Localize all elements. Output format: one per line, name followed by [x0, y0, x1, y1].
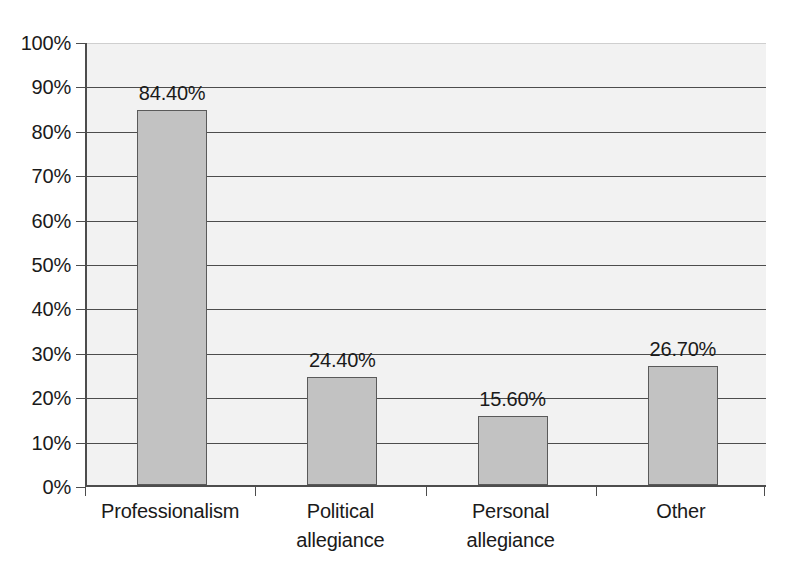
- y-axis-tick-mark: [76, 132, 85, 133]
- y-axis: 0%10%20%30%40%50%60%70%80%90%100%: [0, 43, 85, 487]
- y-axis-tick-label: 30%: [0, 342, 71, 365]
- bar-chart: 0%10%20%30%40%50%60%70%80%90%100% 84.40%…: [0, 0, 799, 571]
- x-axis-tick-mark: [596, 487, 597, 496]
- bar[interactable]: [648, 366, 718, 485]
- y-axis-tick-mark: [76, 43, 85, 44]
- y-axis-tick-mark: [76, 87, 85, 88]
- y-axis-tick-label: 90%: [0, 76, 71, 99]
- y-axis-tick-mark: [76, 354, 85, 355]
- y-axis-tick-label: 40%: [0, 298, 71, 321]
- x-axis-tick-mark: [426, 487, 427, 496]
- x-axis-tick-mark: [85, 487, 86, 496]
- gridline: [87, 43, 766, 44]
- plot-area: 84.40%24.40%15.60%26.70%: [85, 43, 766, 487]
- y-axis-tick-label: 10%: [0, 431, 71, 454]
- x-axis-labels: ProfessionalismPolitical allegiancePerso…: [85, 497, 766, 571]
- bar[interactable]: [137, 110, 207, 485]
- bar-value-label: 84.40%: [139, 82, 206, 105]
- bar-value-label: 15.60%: [479, 388, 546, 411]
- bar-value-label: 24.40%: [309, 349, 376, 372]
- y-axis-tick-mark: [76, 487, 85, 488]
- y-axis-tick-label: 80%: [0, 120, 71, 143]
- x-axis-category-label: Professionalism: [101, 497, 239, 526]
- y-axis-tick-label: 70%: [0, 165, 71, 188]
- y-axis-tick-label: 20%: [0, 387, 71, 410]
- y-axis-tick-mark: [76, 309, 85, 310]
- y-axis-tick-mark: [76, 176, 85, 177]
- bar[interactable]: [478, 416, 548, 485]
- x-axis-tick-mark: [255, 487, 256, 496]
- y-axis-tick-label: 50%: [0, 254, 71, 277]
- y-axis-tick-mark: [76, 443, 85, 444]
- x-axis-ticks: [85, 487, 766, 497]
- y-axis-tick-label: 100%: [0, 32, 71, 55]
- y-axis-tick-label: 0%: [0, 476, 71, 499]
- y-axis-tick-mark: [76, 398, 85, 399]
- bar-value-label: 26.70%: [650, 338, 717, 361]
- y-axis-tick-label: 60%: [0, 209, 71, 232]
- y-axis-tick-mark: [76, 221, 85, 222]
- x-axis-tick-mark: [764, 487, 765, 496]
- bar[interactable]: [307, 377, 377, 485]
- x-axis-category-label: Other: [656, 497, 705, 526]
- x-axis-category-label: Personal allegiance: [467, 497, 555, 555]
- plot-inner: 84.40%24.40%15.60%26.70%: [87, 43, 766, 485]
- x-axis-category-label: Political allegiance: [296, 497, 384, 555]
- y-axis-tick-mark: [76, 265, 85, 266]
